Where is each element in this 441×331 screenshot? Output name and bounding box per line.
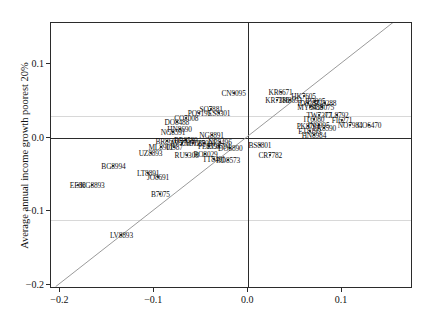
data-point-label: HN8984 — [302, 131, 327, 140]
data-point-label: ES8301 — [208, 108, 231, 117]
y-axis-tick-label: −0.1 — [26, 205, 44, 216]
data-point-label: BD8573 — [216, 155, 240, 164]
data-point-label: UZ8893 — [139, 149, 163, 158]
y-axis-tick-label: 0.1 — [32, 57, 45, 68]
data-point-label: B7075 — [151, 189, 170, 198]
data-point-label: DO8890 — [218, 143, 243, 152]
scatter-plot-figure: Average annual income growth poorest 20%… — [0, 0, 441, 331]
y-axis-tick-label: 0.0 — [32, 131, 45, 142]
x-axis-tick-label: −0.1 — [144, 294, 162, 305]
data-point-label: BG8994 — [101, 162, 125, 171]
data-point-label: CR7782 — [258, 150, 282, 159]
x-axis-tick — [59, 288, 60, 292]
plot-panel: CN9095KR6671HK7605KR7386TH8693JP7905ID82… — [50, 22, 412, 288]
data-point-label: BS8801 — [248, 141, 271, 150]
x-axis-tick — [341, 288, 342, 292]
x-axis-tick-label: 0.1 — [335, 294, 348, 305]
data-point-label: CN9095 — [222, 89, 246, 98]
data-point-label: CO6470 — [357, 121, 381, 130]
data-point-label: KG8893 — [80, 181, 105, 190]
x-axis-tick-label: 0.0 — [241, 294, 254, 305]
data-point-label: JO8691 — [147, 173, 169, 182]
y-axis-tick-label: −0.2 — [26, 278, 44, 289]
x-axis-tick — [153, 288, 154, 292]
x-axis-tick-label: −0.2 — [50, 294, 68, 305]
data-point-label: LV8893 — [110, 230, 133, 239]
y-axis-tick-labels: 0.10.0−0.1−0.2 — [0, 0, 44, 331]
x-axis-tick — [247, 288, 248, 292]
